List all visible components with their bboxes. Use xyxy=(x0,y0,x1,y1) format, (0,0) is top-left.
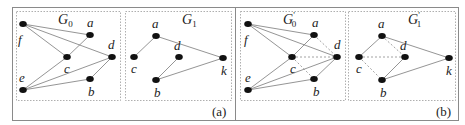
node-c xyxy=(63,54,71,60)
node-label-a: a xyxy=(87,15,94,30)
graph-diagram: (a)G0facdebG1acdkb(b)G'0facdebG'1acdkb xyxy=(0,0,465,125)
node-d xyxy=(401,54,409,60)
node-label-c: c xyxy=(290,61,296,76)
graph-title: G1 xyxy=(182,12,197,29)
edge-b-k xyxy=(156,58,223,80)
edge-e-b xyxy=(23,79,90,90)
graph-title: G'0 xyxy=(283,10,297,29)
node-e xyxy=(244,87,252,93)
graph-title: G0 xyxy=(58,12,73,29)
graph-G0: G0facdeb xyxy=(17,12,121,101)
node-f xyxy=(19,21,27,27)
panel-caption: (a) xyxy=(212,104,226,119)
graph-G1: G1acdkb xyxy=(126,12,232,101)
panel-caption: (b) xyxy=(436,104,451,119)
node-k xyxy=(219,55,227,61)
node-c xyxy=(288,54,296,60)
node-label-a: a xyxy=(378,16,385,31)
node-label-b: b xyxy=(380,85,387,100)
node-a xyxy=(152,33,160,39)
node-k xyxy=(445,55,453,61)
node-label-c: c xyxy=(64,61,70,76)
node-d xyxy=(175,54,183,60)
edge-b-d xyxy=(90,57,112,79)
edge-a-k xyxy=(156,36,223,58)
edge-b-k xyxy=(382,58,449,80)
graph-G1-prime: G'1acdkb xyxy=(349,10,456,101)
edge-b-d xyxy=(314,57,337,79)
edge-a-c xyxy=(67,35,90,57)
edge-a-c xyxy=(359,36,382,57)
edge-f-a xyxy=(248,24,314,35)
node-a xyxy=(378,33,386,39)
graph-title: G'1 xyxy=(408,10,421,29)
panel-a-frame xyxy=(13,8,236,121)
node-label-d: d xyxy=(174,38,181,53)
dashed-edge-c-b xyxy=(359,57,382,80)
edge-e-b xyxy=(248,79,314,90)
edge-a-c xyxy=(292,35,314,57)
node-c xyxy=(130,54,138,60)
node-b xyxy=(378,77,386,83)
node-label-k: k xyxy=(446,63,452,78)
node-label-c: c xyxy=(356,61,362,76)
node-label-k: k xyxy=(221,63,227,78)
node-label-d: d xyxy=(108,37,115,52)
node-f xyxy=(244,21,252,27)
node-label-c: c xyxy=(131,61,137,76)
node-d xyxy=(333,54,341,60)
edge-c-e xyxy=(248,57,292,90)
node-a xyxy=(310,32,318,38)
edge-a-k xyxy=(382,36,449,58)
node-label-d: d xyxy=(400,38,407,53)
node-b xyxy=(152,77,160,83)
edge-a-c xyxy=(134,36,156,57)
edge-f-c xyxy=(248,24,292,57)
node-label-f: f xyxy=(18,32,24,47)
node-label-e: e xyxy=(245,70,251,85)
node-b xyxy=(86,76,94,82)
node-b xyxy=(310,76,318,82)
graph-G0-prime: G'0facdeb xyxy=(241,10,346,101)
node-label-f: f xyxy=(244,32,250,47)
panel-b-frame xyxy=(236,8,459,121)
edge-f-c xyxy=(23,24,67,57)
node-d xyxy=(108,54,116,60)
edge-f-a xyxy=(23,24,90,35)
node-label-b: b xyxy=(88,84,95,99)
node-a xyxy=(86,32,94,38)
node-label-b: b xyxy=(313,84,320,99)
node-label-a: a xyxy=(312,15,319,30)
node-label-a: a xyxy=(152,16,159,31)
node-label-b: b xyxy=(154,85,161,100)
node-label-d: d xyxy=(334,37,341,52)
edge-c-e xyxy=(23,57,67,90)
node-e xyxy=(19,87,27,93)
node-c xyxy=(355,54,363,60)
node-label-e: e xyxy=(19,70,25,85)
